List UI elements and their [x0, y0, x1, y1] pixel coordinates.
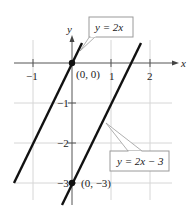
x-tick-label-1: 1 [109, 70, 115, 82]
y-axis-arrow-icon [70, 35, 75, 42]
point-origin [69, 60, 75, 66]
x-tick-label-neg1: −1 [26, 70, 38, 82]
point-y-intercept [69, 180, 75, 186]
y-tick-label-neg2: −2 [57, 137, 69, 149]
x-axis [14, 59, 179, 67]
callout-y-equals-2x: y = 2x [80, 17, 133, 51]
point-origin-label: (0, 0) [76, 68, 100, 81]
grid [14, 40, 172, 200]
y-tick-label-neg3: −3 [57, 177, 69, 189]
callout-label-y-equals-2x-minus-3: y = 2x − 3 [116, 155, 164, 167]
line-graph: x y −1 1 2 −1 −2 −3 (0, 0) (0, −3) y = 2… [0, 0, 193, 215]
point-intercept-label: (0, −3) [81, 177, 111, 190]
y-axis-label: y [66, 23, 72, 35]
y-tick-label-neg1: −1 [57, 97, 69, 109]
x-tick-label-2: 2 [147, 70, 153, 82]
callout-label-y-equals-2x: y = 2x [94, 21, 123, 33]
callout-y-equals-2x-minus-3: y = 2x − 3 [106, 123, 169, 171]
x-axis-label: x [180, 57, 186, 69]
x-axis-arrow-icon [172, 61, 179, 66]
